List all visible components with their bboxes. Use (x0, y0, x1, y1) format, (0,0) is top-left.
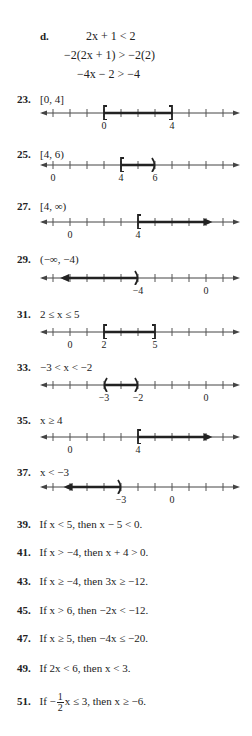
statement-45: 45. If x > 6, then −2x < −12. (17, 604, 148, 616)
statement-number: 51. (17, 695, 31, 707)
tick-label: 4 (136, 444, 141, 455)
number-line-axis (0, 261, 252, 285)
statement-number: 43. (17, 575, 31, 587)
tick-label: −3 (99, 392, 110, 403)
statement-prefix: If − (40, 695, 56, 707)
tick-label: 5 (153, 339, 158, 350)
number-line-axis (0, 368, 252, 392)
tick-label: 2 (102, 339, 107, 350)
number-line: 046 (0, 148, 252, 188)
number-line-axis (0, 205, 252, 229)
number-line: −3−20 (0, 368, 252, 408)
statement-text: If x < 5, then x − 5 < 0. (40, 518, 143, 530)
statement-text: If x ≥ 5, then −4x ≤ −20. (40, 632, 149, 644)
statement-suffix: x ≤ 3, then x ≥ −6. (65, 695, 146, 707)
statement-number: 49. (17, 662, 31, 674)
number-line: 04 (0, 96, 252, 136)
tick-label: 6 (153, 172, 158, 183)
statement-number: 39. (17, 518, 31, 530)
statement-text: If x > −4, then x + 4 > 0. (40, 546, 149, 558)
number-line-axis (0, 470, 252, 494)
tick-label: −4 (133, 285, 144, 296)
tick-label: −2 (133, 392, 144, 403)
statement-49: 49. If 2x < 6, then x < 3. (17, 662, 130, 674)
tick-label: 4 (119, 172, 124, 183)
number-line-axis (0, 148, 252, 172)
tick-label: 0 (170, 494, 175, 505)
number-line: 04 (0, 205, 252, 245)
equation-line-2: −2(2x + 1) > −2(2) (64, 48, 155, 63)
statement-39: 39. If x < 5, then x − 5 < 0. (17, 518, 142, 530)
statement-number: 41. (17, 546, 31, 558)
number-line: 04 (0, 420, 252, 460)
tick-label: 4 (136, 229, 141, 240)
part-d-label: d. (40, 30, 49, 42)
statement-51: 51. If −12x ≤ 3, then x ≥ −6. (17, 692, 146, 713)
tick-label: 0 (68, 229, 73, 240)
equation-line-1: 2x + 1 < 2 (86, 29, 136, 44)
tick-label: 4 (170, 120, 175, 131)
tick-label: 0 (51, 172, 56, 183)
tick-label: 0 (68, 339, 73, 350)
statement-43: 43. If x ≥ −4, then 3x ≥ −12. (17, 575, 148, 587)
fraction-denominator: 2 (57, 703, 64, 713)
number-line: 025 (0, 315, 252, 355)
tick-label: 0 (204, 285, 209, 296)
equation-line-3: −4x − 2 > −4 (77, 67, 140, 82)
statement-41: 41. If x > −4, then x + 4 > 0. (17, 546, 148, 558)
statement-text: If x > 6, then −2x < −12. (40, 604, 149, 616)
statement-47: 47. If x ≥ 5, then −4x ≤ −20. (17, 632, 148, 644)
statement-text: If x ≥ −4, then 3x ≥ −12. (40, 575, 149, 587)
tick-label: 0 (102, 120, 107, 131)
statement-number: 47. (17, 632, 31, 644)
statement-text: If 2x < 6, then x < 3. (40, 662, 131, 674)
tick-label: 0 (204, 392, 209, 403)
number-line-axis (0, 96, 252, 120)
number-line: −40 (0, 261, 252, 301)
statement-number: 45. (17, 604, 31, 616)
fraction: 12 (57, 692, 64, 713)
number-line-axis (0, 315, 252, 339)
tick-label: 0 (68, 444, 73, 455)
number-line-axis (0, 420, 252, 444)
number-line: −30 (0, 470, 252, 510)
tick-label: −3 (116, 494, 127, 505)
